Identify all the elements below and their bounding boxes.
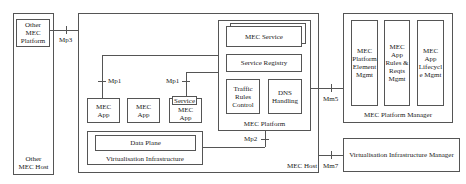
app-service: Service: [172, 96, 197, 105]
data-plane: Data Plane: [95, 135, 196, 151]
mm5-label: Mm5: [323, 95, 338, 103]
mp1-right-label: Mp1: [166, 77, 179, 85]
mp3-tick: [66, 26, 67, 34]
dns-handling: DNS Handling: [268, 79, 302, 114]
mm5-line: [311, 88, 343, 89]
mp1-bus-line: [102, 55, 218, 56]
mm5-tick: [331, 84, 332, 92]
mec-app-2: MEC App: [127, 98, 160, 123]
mp1-right-drop: [186, 72, 187, 96]
mm7-label: Mm7: [323, 162, 338, 170]
mp2-label: Mp2: [244, 135, 257, 143]
platform-element-mgmt: MEC Platform Element Mgmt: [351, 20, 378, 106]
virtualisation-infrastructure-manager: Virtualisation Infrastructure Manager: [343, 138, 460, 172]
mm7-tick: [331, 151, 332, 159]
app-lifecycle-mgmt: MEC App Lifecycl e Mgmt: [417, 20, 444, 106]
mec-app-1: MEC App: [87, 98, 120, 123]
mp1-left-drop: [102, 55, 103, 98]
app-rules-reqts-mgmt: MEC App Rules & Reqts Mgmt: [384, 20, 410, 106]
mp1-left-tick: [98, 81, 106, 82]
mp1-right-tick: [182, 81, 190, 82]
mec-service: MEC Service: [226, 26, 302, 47]
mp1-right-line: [186, 72, 218, 73]
mp2-line-h: [203, 147, 265, 148]
virtualisation-infrastructure-label: Virtualisation Infrastructure: [87, 155, 203, 163]
mp3-label: Mp3: [59, 36, 72, 44]
service-registry: Service Registry: [226, 54, 302, 72]
mec-platform-manager-label: MEC Platform Manager: [343, 111, 453, 119]
mp1-left-label: Mp1: [108, 77, 121, 85]
mec-platform-label: MEC Platform: [218, 120, 311, 128]
mec-host-label: MEC Host: [287, 162, 317, 170]
traffic-rules-control: Traffic Rules Control: [226, 79, 260, 114]
other-mec-platform: Other MEC Platform: [16, 19, 50, 47]
other-mec-host-label: Other MEC Host: [13, 155, 54, 171]
mp2-tick: [261, 139, 269, 140]
